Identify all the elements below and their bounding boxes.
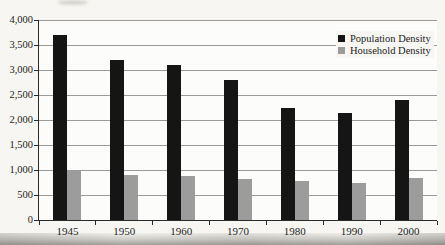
- population-density-bar-1960: [167, 65, 181, 220]
- x-tick-mark: [39, 221, 40, 225]
- legend-item-population-density: Population Density: [338, 33, 431, 44]
- y-tick-label: 1,000: [0, 164, 33, 176]
- x-tick-label: 1990: [330, 225, 374, 238]
- x-tick-mark: [380, 221, 381, 225]
- y-tick-label: 1,500: [0, 139, 33, 151]
- x-tick-label: 1945: [45, 225, 89, 238]
- x-tick-mark: [323, 221, 324, 225]
- y-tick-label: 500: [0, 189, 33, 201]
- population-density-swatch-icon: [338, 35, 345, 42]
- x-tick-label: 1970: [216, 225, 260, 238]
- gridline: [39, 70, 437, 71]
- y-tick-label: 2,500: [0, 89, 33, 101]
- household-density-bar-1990: [352, 183, 366, 221]
- gridline: [39, 120, 437, 121]
- y-tick-mark: [34, 120, 38, 121]
- x-tick-label: 2000: [387, 225, 431, 238]
- x-tick-mark: [95, 221, 96, 225]
- x-tick-mark: [437, 221, 438, 225]
- y-tick-mark: [34, 170, 38, 171]
- legend-item-household-density: Household Density: [338, 45, 431, 56]
- x-tick-label: 1960: [159, 225, 203, 238]
- y-tick-mark: [34, 20, 38, 21]
- gridline: [39, 20, 437, 21]
- y-tick-mark: [34, 145, 38, 146]
- x-tick-mark: [152, 221, 153, 225]
- legend-label-household-density: Household Density: [350, 45, 431, 56]
- population-density-bar-1970: [224, 80, 238, 220]
- population-density-bar-1980: [281, 108, 295, 221]
- y-tick-label: 4,000: [0, 14, 33, 26]
- household-density-bar-1970: [238, 179, 252, 220]
- household-density-bar-2000: [409, 178, 423, 221]
- y-tick-mark: [34, 195, 38, 196]
- gridline: [39, 95, 437, 96]
- household-density-bar-1960: [181, 176, 195, 220]
- chart-legend: Population Density Household Density: [336, 31, 434, 58]
- population-density-bar-1945: [53, 35, 67, 220]
- population-density-bar-2000: [395, 100, 409, 220]
- household-density-bar-1950: [124, 175, 138, 220]
- legend-label-population-density: Population Density: [350, 33, 431, 44]
- x-tick-label: 1980: [273, 225, 317, 238]
- y-tick-mark: [34, 220, 38, 221]
- y-tick-mark: [34, 45, 38, 46]
- household-density-bar-1980: [295, 181, 309, 220]
- y-tick-mark: [34, 95, 38, 96]
- scan-artifact: [58, 0, 88, 5]
- y-tick-mark: [34, 70, 38, 71]
- gridline: [39, 145, 437, 146]
- x-tick-mark: [266, 221, 267, 225]
- population-density-bar-1950: [110, 60, 124, 220]
- y-tick-label: 3,000: [0, 64, 33, 76]
- y-tick-label: 3,500: [0, 39, 33, 51]
- y-tick-label: 0: [0, 214, 33, 226]
- x-tick-label: 1950: [102, 225, 146, 238]
- y-tick-label: 2,000: [0, 114, 33, 126]
- household-density-bar-1945: [67, 170, 81, 220]
- x-tick-mark: [209, 221, 210, 225]
- scanned-chart-page: 05001,0001,5002,0002,5003,0003,5004,000 …: [0, 0, 445, 245]
- household-density-swatch-icon: [338, 47, 345, 54]
- population-density-bar-1990: [338, 113, 352, 221]
- gridline: [39, 170, 437, 171]
